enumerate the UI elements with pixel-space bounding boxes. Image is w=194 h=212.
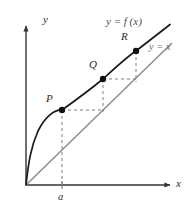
point-p-marker	[59, 107, 65, 113]
point-p-label: P	[46, 93, 53, 104]
tick-label-a: a	[58, 192, 63, 203]
point-r-marker	[133, 48, 139, 54]
cobweb-diagram: y x y = f (x) y = x P Q R a	[0, 0, 194, 212]
x-axis-label: x	[176, 178, 181, 189]
function-curve-label: y = f (x)	[106, 16, 142, 27]
point-r-label: R	[121, 31, 128, 42]
identity-line-label: y = x	[149, 42, 171, 53]
y-axis-label: y	[43, 14, 48, 25]
guide-lines	[62, 51, 137, 185]
point-q-label: Q	[89, 59, 97, 70]
identity-line	[26, 43, 172, 185]
plot-canvas	[0, 0, 194, 212]
point-q-marker	[100, 76, 106, 82]
